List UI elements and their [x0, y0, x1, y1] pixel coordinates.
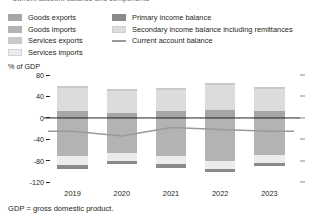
- bar-segment[interactable]: [57, 165, 88, 169]
- plot-canvas: 80400-40-80-120: [48, 75, 294, 182]
- y-axis-tick-mark: [46, 160, 50, 161]
- x-axis-tick-label: 2023: [261, 189, 277, 198]
- y-axis-tick-mark: [46, 182, 50, 183]
- bar-segment[interactable]: [254, 89, 285, 111]
- y-axis-tick: 80: [36, 71, 44, 80]
- bar-segment[interactable]: [57, 118, 88, 157]
- y-axis-tick-mark-right: [300, 96, 305, 97]
- color-swatch-icon: [8, 14, 22, 21]
- legend-label: Goods exports: [28, 14, 76, 21]
- bar-group[interactable]: [57, 75, 88, 182]
- x-axis-tick-label: 2019: [64, 189, 80, 198]
- x-axis-tick-label: 2022: [212, 189, 228, 198]
- y-axis-tick: -120: [30, 178, 44, 187]
- y-axis-tick-mark-right: [300, 75, 305, 76]
- bar-segment[interactable]: [205, 85, 236, 110]
- bar-segment[interactable]: [254, 87, 285, 89]
- color-swatch-icon: [8, 49, 22, 56]
- legend-label: Services imports: [28, 49, 83, 56]
- color-swatch-icon: [8, 37, 22, 44]
- bar-segment[interactable]: [156, 118, 187, 157]
- bar-segment[interactable]: [254, 163, 285, 166]
- bar-group[interactable]: [254, 75, 285, 182]
- line-swatch-icon: [112, 37, 126, 44]
- legend-item-secondary-income-balance: Secondary income balance including remit…: [112, 24, 293, 36]
- bar-group[interactable]: [156, 75, 187, 182]
- legend-label: Current account balance: [132, 37, 213, 44]
- y-axis-tick-mark: [46, 75, 50, 76]
- legend-label: Goods imports: [28, 26, 76, 33]
- y-axis-tick: -40: [34, 135, 44, 144]
- bar-segment[interactable]: [107, 91, 138, 113]
- legend-column-left: Goods exports Goods imports Services exp…: [8, 12, 83, 58]
- bar-segment[interactable]: [156, 88, 187, 90]
- y-axis-tick-mark-right: [300, 117, 305, 118]
- bar-segment[interactable]: [57, 88, 88, 112]
- y-axis-tick: 40: [36, 92, 44, 101]
- bar-segment[interactable]: [205, 83, 236, 85]
- y-axis-tick-mark-right: [300, 160, 305, 161]
- bar-segment[interactable]: [205, 161, 236, 169]
- legend-item-services-exports: Services exports: [8, 35, 83, 47]
- y-axis-tick-mark-right: [300, 139, 305, 140]
- x-axis-tick-label: 2021: [163, 189, 179, 198]
- color-swatch-icon: [112, 14, 126, 21]
- bar-segment[interactable]: [57, 156, 88, 165]
- legend-item-primary-income-balance: Primary income balance: [112, 12, 293, 24]
- bar-segment[interactable]: [205, 118, 236, 161]
- chart-plot-area: % of GDP 80400-40-80-120 201920202021202…: [0, 62, 318, 202]
- bar-layer: [48, 75, 294, 182]
- bar-segment[interactable]: [107, 153, 138, 160]
- legend-label: Secondary income balance including remit…: [132, 26, 293, 33]
- y-axis-tick-mark: [46, 139, 50, 140]
- bar-segment[interactable]: [57, 86, 88, 88]
- y-axis-tick-mark-right: [300, 182, 305, 183]
- color-swatch-icon: [112, 26, 126, 33]
- y-axis-tick: -80: [34, 156, 44, 165]
- color-swatch-icon: [8, 26, 22, 33]
- legend-label: Services exports: [28, 37, 83, 44]
- legend-column-right: Primary income balance Secondary income …: [112, 12, 293, 47]
- legend-item-current-account-balance: Current account balance: [112, 35, 293, 47]
- legend-item-goods-exports: Goods exports: [8, 12, 83, 24]
- bar-segment[interactable]: [254, 118, 285, 155]
- bar-segment[interactable]: [107, 161, 138, 164]
- x-axis-tick-label: 2020: [114, 189, 130, 198]
- bar-segment[interactable]: [107, 118, 138, 153]
- legend-label: Primary income balance: [132, 14, 211, 21]
- x-axis-labels: 20192020202120222023: [48, 189, 294, 201]
- chart-legend: Goods exports Goods imports Services exp…: [8, 12, 310, 60]
- bar-segment[interactable]: [107, 89, 138, 90]
- chart-title: Current account balance and components: [12, 0, 149, 3]
- bar-segment[interactable]: [156, 156, 187, 164]
- legend-item-services-imports: Services imports: [8, 47, 83, 59]
- bar-segment[interactable]: [254, 155, 285, 162]
- bar-segment[interactable]: [205, 169, 236, 173]
- bar-group[interactable]: [205, 75, 236, 182]
- chart-footnote: GDP = gross domestic product.: [8, 204, 114, 213]
- zero-axis-line: [44, 117, 300, 118]
- bar-segment[interactable]: [156, 90, 187, 111]
- y-axis-tick-mark: [46, 96, 50, 97]
- bar-group[interactable]: [107, 75, 138, 182]
- bar-segment[interactable]: [156, 164, 187, 167]
- legend-item-goods-imports: Goods imports: [8, 24, 83, 36]
